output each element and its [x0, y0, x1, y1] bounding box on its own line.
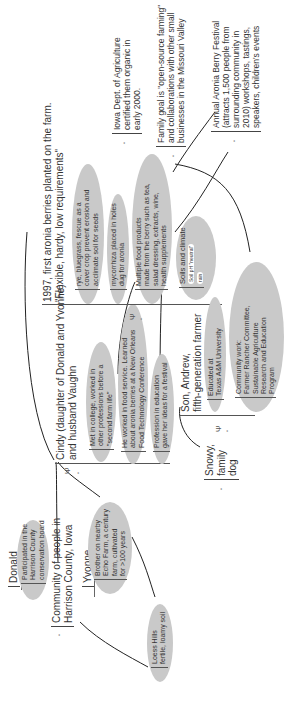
cindy-item: Met in college, worked in other professi…	[89, 365, 114, 450]
soils-bullet: rain	[197, 272, 203, 284]
soils-bullet: Soil pH "neutral"	[188, 244, 194, 284]
farm-1997-header: 1997, first aronia berries planted on th…	[42, 102, 65, 302]
bullet-icon: •	[224, 430, 230, 432]
farm-1997-item: Multiple food products made from the ber…	[135, 183, 168, 290]
yvonne-ellipse: Brother on nearby Echo Farm, a century f…	[88, 502, 132, 594]
expand-icon[interactable]: Ψ	[214, 425, 223, 432]
cindy-item: Profession in education gave her ideas f…	[153, 362, 170, 452]
festival-node: Annual Aronia Berry Festival (attracts 1…	[211, 21, 261, 132]
expand-icon[interactable]: Ψ	[128, 313, 137, 320]
cindy-item-ellipse: Profession in education gave her ideas f…	[150, 354, 174, 464]
bullet-icon: •	[121, 142, 127, 144]
soils-ellipse: Soils and climate Soil pH "neutral" rain	[176, 216, 216, 300]
bullet-icon: •	[218, 488, 224, 490]
yvonne-item: Brother on nearby Echo Farm, a century f…	[94, 509, 127, 580]
andrew-divider	[180, 415, 255, 416]
andrew-header: Son, Andrew, fifth-generation farmer	[180, 314, 203, 412]
andrew-item-ellipse: Educated at Texas A&M University	[204, 297, 226, 412]
bullet-icon: •	[75, 472, 81, 474]
farm-1997-item: rye, bluegrass, fescue as a cover crop p…	[75, 190, 100, 291]
cindy-divider	[55, 463, 170, 464]
community-node: Community of people in Harrison County, …	[51, 518, 74, 627]
farm-1997-divider	[42, 304, 222, 305]
donald-ellipse: Participated in the Harrison County cons…	[17, 520, 49, 600]
snowy-node: Snowy, family dog	[204, 444, 239, 480]
andrew-item: Educated at Texas A&M University	[207, 328, 224, 400]
soils-node: Soils and climate Soil pH "neutral" rain	[179, 227, 204, 288]
farm-1997-item: mycorrhiza placed in holes dug for aroni…	[110, 203, 127, 290]
cindy-item: He worked in food service. Learned about…	[121, 330, 146, 452]
farm-1997-item-ellipse: mycorrhiza placed in holes dug for aroni…	[107, 194, 129, 304]
expand-icon[interactable]: Ψ	[63, 467, 72, 474]
iowa-dept-node: Iowa Dept. of Agriculture certified them…	[112, 37, 142, 134]
farm-1997-item-ellipse: Multiple food products made from the ber…	[132, 154, 172, 304]
cindy-header: Cindy (daughter of Donald and Yvonne) an…	[55, 285, 78, 461]
bullet-icon: •	[170, 155, 176, 157]
donald-item: Participated in the Harrison County cons…	[21, 520, 46, 584]
bullet-icon: •	[138, 318, 144, 320]
cindy-item-ellipse: He worked in food service. Learned about…	[118, 304, 148, 464]
loess-hills-ellipse: Loess Hills fertile, loamy soil	[147, 604, 173, 682]
cindy-item-ellipse: Met in college, worked in other professi…	[86, 342, 116, 462]
concept-map: Donald Ψ • Participated in the Harrison …	[0, 0, 287, 712]
andrew-item-ellipse: Community work: Farmer Rancher Committee…	[229, 262, 284, 412]
andrew-item: Community work: Farmer Rancher Committee…	[235, 305, 276, 398]
farm-1997-item-ellipse: rye, bluegrass, fescue as a cover crop p…	[72, 164, 104, 304]
bullet-icon: •	[56, 634, 62, 636]
family-goal-node: Family goal is "open-source farming" and…	[156, 5, 186, 147]
bullet-icon: •	[231, 140, 237, 142]
loess-hills-node: Loess Hills fertile, loamy soil	[151, 612, 168, 668]
